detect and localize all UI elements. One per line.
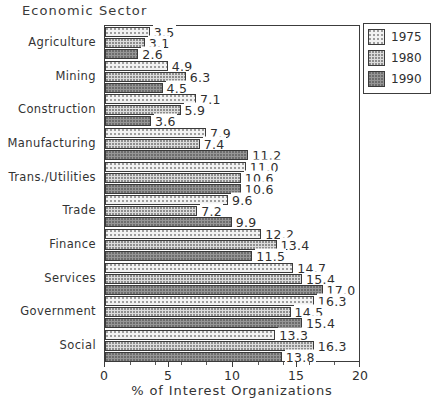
x-tick-minor [206,362,207,365]
x-axis-title: % of Interest Organizations [104,383,360,398]
x-tick-label: 0 [100,368,108,383]
bar-services-1975 [105,263,293,273]
x-tick [232,362,233,367]
bar-trade-1990 [105,217,232,227]
chart-title: Economic Sector [22,3,147,18]
bar-finance-1980 [105,240,277,250]
category-label: Trade [63,203,97,217]
legend-item-1980: 1980 [368,50,427,66]
category-label: Government [20,304,96,318]
value-label: 11.5 [255,249,286,264]
category-label: Agriculture [28,35,96,49]
x-tick-minor [283,362,284,365]
x-tick-minor [309,362,310,365]
bar-social-1990 [105,352,282,362]
category-label: Social [60,338,97,352]
bar-government-1980 [105,307,291,317]
bar-trade-1980 [105,206,197,216]
category-axis: AgricultureMiningConstructionManufacturi… [0,25,100,362]
bar-manufacturing-1990 [105,150,248,160]
bar-mining-1990 [105,83,163,93]
legend-item-1975: 1975 [368,29,427,45]
value-label: 5.9 [184,103,207,118]
bar-manufacturing-1980 [105,139,200,149]
bar-government-1975 [105,296,314,306]
x-tick-minor [334,362,335,365]
value-label: 2.6 [141,46,164,61]
legend-swatch-1990 [368,71,385,87]
category-label: Construction [18,102,96,116]
value-label: 15.4 [305,316,336,331]
value-label: 6.3 [189,69,212,84]
legend-label: 1975 [391,30,422,44]
value-label: 3.6 [154,114,177,129]
x-axis-ticks: 05101520 [104,362,360,368]
x-tick [359,362,360,367]
x-tick [296,362,297,367]
bar-services-1980 [105,274,302,284]
x-tick-label: 10 [224,368,240,383]
plot-area: 3.53.12.64.96.34.57.15.93.67.97.411.211.… [104,25,360,362]
x-tick-label: 15 [288,368,304,383]
bar-mining-1975 [105,61,168,71]
x-tick-label: 20 [352,368,368,383]
bar-agriculture-1990 [105,49,138,59]
bar-trans-utilities-1975 [105,162,246,172]
legend-swatch-1975 [368,29,385,45]
x-tick-minor [155,362,156,365]
category-label: Trans./Utilities [8,170,96,184]
legend-item-1990: 1990 [368,71,427,87]
bar-agriculture-1975 [105,27,150,37]
bar-social-1980 [105,341,314,351]
legend-label: 1990 [391,72,422,86]
bar-construction-1975 [105,94,196,104]
bar-finance-1990 [105,251,252,261]
x-tick [104,362,105,367]
legend-label: 1980 [391,51,422,65]
x-tick [168,362,169,367]
bar-services-1990 [105,285,323,295]
category-label: Finance [49,237,96,251]
bar-trans-utilities-1990 [105,184,241,194]
value-label: 9.6 [231,193,254,208]
category-label: Mining [55,69,96,83]
category-label: Manufacturing [8,136,96,150]
x-tick-label: 5 [164,368,172,383]
value-label: 16.3 [317,339,348,354]
x-tick-minor [181,362,182,365]
chart-legend: 197519801990 [363,23,431,94]
value-label: 9.9 [235,215,258,230]
value-label: 4.5 [166,80,189,95]
bar-social-1975 [105,330,275,340]
bar-agriculture-1980 [105,38,145,48]
category-label: Services [44,271,96,285]
bar-government-1990 [105,318,302,328]
bar-manufacturing-1975 [105,128,206,138]
bar-construction-1990 [105,116,151,126]
x-tick-minor [130,362,131,365]
bar-finance-1975 [105,229,261,239]
legend-swatch-1980 [368,50,385,66]
bar-trans-utilities-1980 [105,173,241,183]
x-tick-minor [258,362,259,365]
